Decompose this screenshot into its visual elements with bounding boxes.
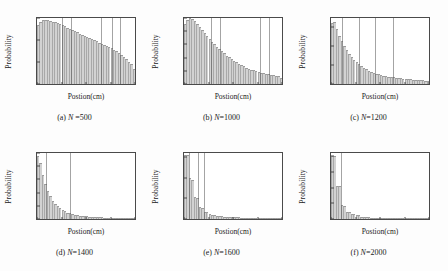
x-axis-label-a: Postion(cm) bbox=[36, 92, 136, 101]
x-tick-mark bbox=[380, 82, 381, 85]
x-tick-mark bbox=[282, 217, 283, 220]
panel-caption-e: (e) N=1600 bbox=[147, 248, 296, 257]
x-tick-label: 2 bbox=[354, 84, 357, 85]
scan-stripe bbox=[393, 18, 394, 84]
x-tick-label: 2 bbox=[60, 84, 63, 85]
plot-c: Probability00.050.10.1502468Postion(cm) bbox=[294, 0, 443, 104]
panel-e: Probability00.10.20.302468Postion(cm)(e)… bbox=[147, 135, 296, 270]
scan-stripe bbox=[342, 18, 343, 84]
scan-stripe bbox=[70, 153, 71, 219]
x-tick-mark bbox=[404, 82, 405, 85]
y-tick-mark bbox=[331, 65, 334, 66]
y-tick-mark bbox=[37, 205, 40, 206]
caption-prefix: (e) bbox=[203, 248, 212, 257]
y-tick-mark bbox=[331, 171, 334, 172]
figure-six-histograms: Probability00.0250.050.07502468Postion(c… bbox=[0, 0, 448, 271]
y-tick-mark bbox=[37, 179, 40, 180]
caption-value: =1000 bbox=[220, 113, 241, 122]
x-tick-mark bbox=[184, 217, 185, 220]
y-axis-label-text: Probability bbox=[151, 34, 160, 68]
plot-area-c: 00.050.10.1502468 bbox=[330, 17, 430, 85]
caption-prefix: (d) bbox=[56, 248, 65, 257]
x-tick-mark bbox=[429, 82, 430, 85]
scan-stripe bbox=[62, 18, 63, 84]
scan-stripe bbox=[341, 153, 342, 219]
x-tick-label: 6 bbox=[109, 84, 112, 85]
x-tick-mark bbox=[257, 217, 258, 220]
caption-value: =1600 bbox=[219, 248, 240, 257]
x-tick-label: 8 bbox=[280, 219, 283, 220]
x-axis-label-b: Postion(cm) bbox=[183, 92, 283, 101]
panel-caption-a: (a) N =500 bbox=[0, 113, 149, 122]
plot-area-d: 00.050.10.150.20.2502468 bbox=[36, 152, 136, 220]
panel-caption-b: (b) N=1000 bbox=[147, 113, 296, 122]
x-tick-mark bbox=[135, 217, 136, 220]
y-tick-mark bbox=[331, 187, 334, 188]
x-tick-mark bbox=[86, 82, 87, 85]
y-tick-mark bbox=[184, 18, 187, 19]
x-tick-label: 8 bbox=[427, 219, 430, 220]
x-tick-mark bbox=[86, 217, 87, 220]
y-tick-mark bbox=[37, 153, 40, 154]
plot-area-e: 00.10.20.302468 bbox=[183, 152, 283, 220]
y-tick-mark bbox=[37, 166, 40, 167]
x-axis-label-f: Postion(cm) bbox=[330, 227, 430, 236]
x-tick-label: 2 bbox=[207, 84, 210, 85]
y-axis-label-a: Probability bbox=[3, 17, 14, 85]
y-tick-mark bbox=[37, 192, 40, 193]
y-tick-mark bbox=[184, 198, 187, 199]
x-tick-label: 0 bbox=[36, 219, 39, 220]
x-tick-mark bbox=[331, 217, 332, 220]
y-tick-mark bbox=[184, 177, 187, 178]
panel-a: Probability00.0250.050.07502468Postion(c… bbox=[0, 0, 149, 135]
bars-f bbox=[331, 153, 429, 219]
x-tick-label: 4 bbox=[231, 84, 234, 85]
panel-caption-f: (f) N=2000 bbox=[294, 248, 443, 257]
x-tick-label: 2 bbox=[207, 219, 210, 220]
x-tick-mark bbox=[208, 82, 209, 85]
y-tick-mark bbox=[37, 62, 40, 63]
bars-a bbox=[37, 18, 135, 84]
plot-area-b: 00.0250.050.0750.10.12502468 bbox=[183, 17, 283, 85]
x-tick-mark bbox=[429, 217, 430, 220]
x-tick-label: 4 bbox=[84, 219, 87, 220]
x-axis-label-c: Postion(cm) bbox=[330, 92, 430, 101]
y-axis-label-d: Probability bbox=[3, 152, 14, 220]
plot-e: Probability00.10.20.302468Postion(cm) bbox=[147, 135, 296, 239]
scan-stripe bbox=[71, 18, 72, 84]
plot-f: Probability00.10.20.30.402468Postion(cm) bbox=[294, 135, 443, 239]
y-axis-label-text: Probability bbox=[4, 34, 13, 68]
plot-d: Probability00.050.10.150.20.2502468Posti… bbox=[0, 135, 149, 239]
bars-d bbox=[37, 153, 135, 219]
caption-prefix: (c) bbox=[350, 113, 359, 122]
x-tick-mark bbox=[355, 82, 356, 85]
x-tick-label: 8 bbox=[133, 219, 136, 220]
y-tick-mark bbox=[37, 40, 40, 41]
x-tick-mark bbox=[110, 82, 111, 85]
y-tick-mark bbox=[331, 27, 334, 28]
x-tick-mark bbox=[282, 82, 283, 85]
caption-value: =1400 bbox=[73, 248, 94, 257]
panel-caption-c: (c) N=1200 bbox=[294, 113, 443, 122]
y-axis-label-text: Probability bbox=[151, 169, 160, 203]
plot-a: Probability00.0250.050.07502468Postion(c… bbox=[0, 0, 149, 104]
x-tick-label: 0 bbox=[36, 84, 39, 85]
x-tick-label: 4 bbox=[378, 84, 381, 85]
scan-stripe bbox=[211, 18, 212, 84]
x-tick-label: 8 bbox=[427, 84, 430, 85]
bars-b bbox=[184, 18, 282, 84]
panel-f: Probability00.10.20.30.402468Postion(cm)… bbox=[294, 135, 443, 270]
y-tick-mark bbox=[331, 156, 334, 157]
panel-b: Probability00.0250.050.0750.10.12502468P… bbox=[147, 0, 296, 135]
x-axis-label-d: Postion(cm) bbox=[36, 227, 136, 236]
x-tick-label: 6 bbox=[256, 84, 259, 85]
x-tick-label: 8 bbox=[280, 84, 283, 85]
x-tick-mark bbox=[208, 217, 209, 220]
y-tick-mark bbox=[184, 157, 187, 158]
x-tick-mark bbox=[37, 217, 38, 220]
x-axis-label-e: Postion(cm) bbox=[183, 227, 283, 236]
scan-stripe bbox=[120, 18, 121, 84]
x-tick-mark bbox=[331, 82, 332, 85]
y-tick-mark bbox=[331, 46, 334, 47]
scan-stripe bbox=[198, 153, 199, 219]
